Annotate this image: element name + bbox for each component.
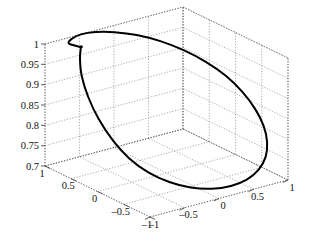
floor-grid-x — [114, 148, 219, 199]
axis-layer — [45, 7, 288, 217]
z-tick-label: 0.9 — [26, 79, 39, 90]
plot-canvas: 0.70.750.80.850.90.951–1–0.500.51–1–0.50… — [0, 0, 315, 250]
z-tick-label: 0.7 — [26, 161, 39, 172]
y-tick-label: 0 — [92, 193, 97, 204]
data-curve — [68, 32, 267, 189]
figure-3d-plot: 0.70.750.80.850.90.951–1–0.500.51–1–0.50… — [0, 0, 315, 250]
y-tick-label: –0.5 — [111, 206, 130, 217]
x-tick-label: –0.5 — [178, 209, 197, 220]
x-tick-mark — [214, 199, 219, 201]
x-tick-label: –1 — [148, 219, 160, 230]
x-tick-label: 0.5 — [251, 191, 264, 202]
z-tick-label: 0.8 — [26, 120, 39, 131]
z-tick-label: 0.85 — [21, 100, 39, 111]
curve-layer — [68, 32, 267, 189]
y-tick-mark — [98, 192, 103, 194]
z-tick-label: 0.75 — [21, 140, 39, 151]
y-tick-mark — [45, 166, 50, 168]
x-tick-label: 0 — [220, 200, 225, 211]
tick-label-layer: 0.70.750.80.850.90.951–1–0.500.51–1–0.50… — [21, 39, 295, 230]
y-tick-label: 1 — [39, 168, 44, 179]
y-tick-label: 0.5 — [62, 180, 75, 191]
axis-edge-top-left — [45, 7, 183, 44]
grid-layer — [45, 7, 288, 217]
x-tick-label: 1 — [289, 182, 294, 193]
floor-grid-y — [98, 155, 236, 192]
z-tick-label: 0.95 — [21, 59, 39, 70]
z-tick-label: 1 — [34, 39, 39, 50]
